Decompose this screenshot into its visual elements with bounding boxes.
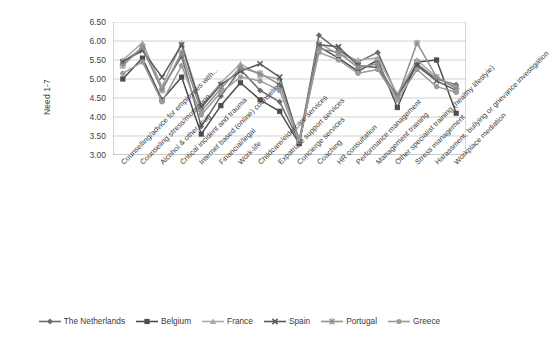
data-point-star xyxy=(329,318,336,325)
legend-item[interactable]: Spain xyxy=(264,316,310,327)
legend-item[interactable]: Belgium xyxy=(136,316,191,327)
legend-label: The Netherlands xyxy=(64,317,125,325)
chart-legend: The NetherlandsBelgiumFranceSpainPortuga… xyxy=(0,311,479,331)
legend-marker-diamond-icon xyxy=(39,316,61,327)
data-point-circle xyxy=(396,318,401,323)
legend-marker-star-icon xyxy=(321,316,343,327)
legend-label: Greece xyxy=(413,317,440,325)
data-point-diamond xyxy=(47,318,53,324)
legend-label: Portugal xyxy=(346,317,377,325)
data-point-square xyxy=(144,318,149,323)
legend-marker-square-icon xyxy=(136,316,158,327)
legend-item[interactable]: The Netherlands xyxy=(39,316,125,327)
legend-item[interactable]: France xyxy=(202,316,253,327)
legend-item[interactable]: Portugal xyxy=(321,316,377,327)
legend-marker-circle-icon xyxy=(388,316,410,327)
legend-marker-x-icon xyxy=(264,316,286,327)
legend-label: Spain xyxy=(289,317,310,325)
legend-item[interactable]: Greece xyxy=(388,316,440,327)
legend-label: France xyxy=(227,317,253,325)
legend-marker-triangle-icon xyxy=(202,316,224,327)
legend-label: Belgium xyxy=(161,317,191,325)
